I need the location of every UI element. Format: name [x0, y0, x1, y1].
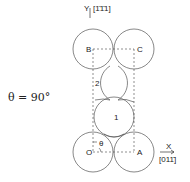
point-C: C: [137, 45, 143, 54]
x-axis-direction: [011̄]: [159, 155, 176, 164]
point-O: O: [86, 148, 92, 157]
y-axis-direction: [1̄1̄1]: [93, 4, 111, 13]
arc-join-left: [95, 99, 110, 100]
crystal-packing-diagram: Y [1̄1̄1] B C O A 2 1 θ X [011̄]: [0, 0, 190, 182]
atom-mid-left-arc: [101, 66, 110, 100]
angle-theta: θ: [99, 139, 104, 148]
site-1: 1: [114, 113, 119, 122]
x-axis-label: X: [166, 142, 172, 151]
point-A: A: [137, 148, 143, 157]
y-axis-label: Y: [84, 4, 90, 13]
site-2: 2: [95, 79, 100, 88]
point-B: B: [86, 45, 91, 54]
atom-mid-right-arc: [118, 66, 127, 100]
